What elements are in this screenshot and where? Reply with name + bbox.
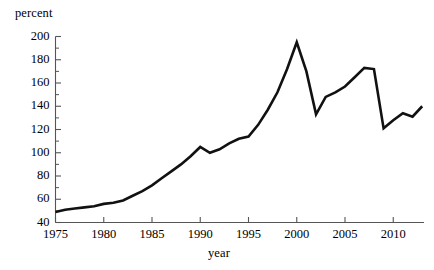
y-tick-label: 200 [18,29,50,44]
y-tick-label: 60 [18,191,50,206]
data-series-group [56,42,423,212]
x-tick-label: 1995 [227,227,271,242]
x-tick-label: 2010 [371,227,415,242]
series-line-1 [56,42,423,212]
x-axis [56,217,425,223]
x-tick-label: 1990 [178,227,222,242]
y-tick-label: 160 [18,75,50,90]
y-axis [56,37,62,223]
x-tick-label: 1975 [34,227,78,242]
y-tick-label: 140 [18,98,50,113]
x-tick-label: 1985 [130,227,174,242]
x-tick-label: 1980 [82,227,126,242]
y-tick-label: 80 [18,168,50,183]
y-tick-label: 120 [18,122,50,137]
y-tick-label: 100 [18,145,50,160]
x-tick-label: 2000 [275,227,319,242]
y-tick-label: 180 [18,52,50,67]
line-chart: percent year 406080100120140160180200197… [0,0,434,270]
x-tick-label: 2005 [323,227,367,242]
